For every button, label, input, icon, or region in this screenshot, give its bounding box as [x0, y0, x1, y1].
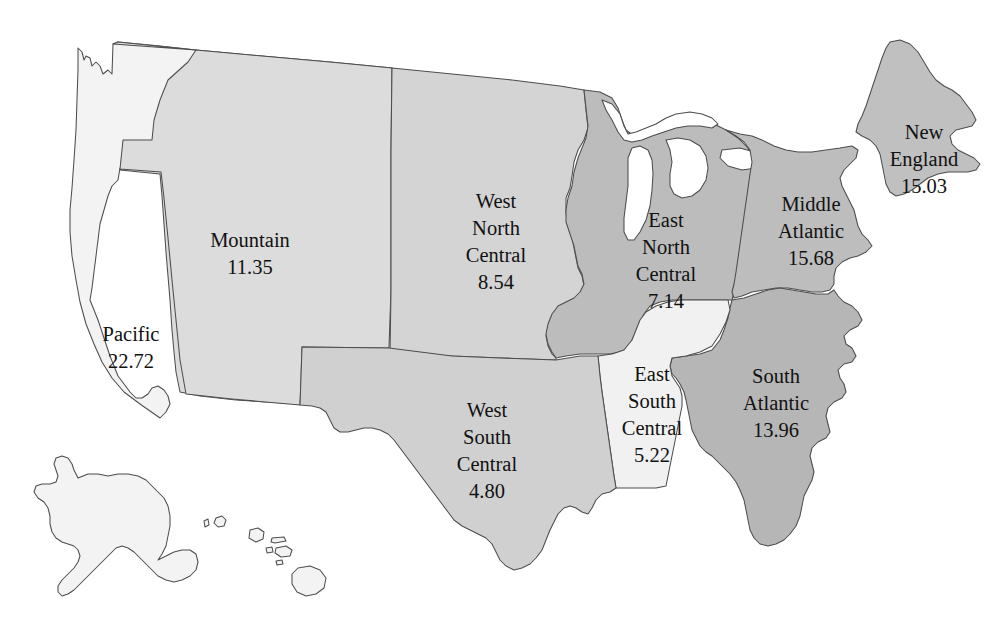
region-label-east-north-central-line-0: East	[648, 209, 684, 231]
region-label-west-south-central-line-1: South	[463, 426, 511, 448]
region-label-south-atlantic-line-1: Atlantic	[743, 392, 809, 414]
inset-shape-hawaii-bigisland	[292, 566, 326, 596]
region-label-south-atlantic-value: 13.96	[753, 419, 799, 441]
region-label-pacific: Pacific 22.72	[103, 323, 160, 372]
region-label-east-north-central-value: 7.14	[648, 290, 684, 312]
region-label-east-north-central-line-2: Central	[636, 263, 697, 285]
region-label-east-south-central-line-0: East	[634, 363, 670, 385]
region-label-pacific-value: 22.72	[108, 350, 154, 372]
inset-shape-hawaii-maui	[275, 546, 292, 557]
region-label-east-south-central-line-1: South	[628, 390, 676, 412]
region-label-new-england-value: 15.03	[901, 175, 947, 197]
inset-shape-hawaii-niihau	[204, 519, 209, 527]
inset-shape-hawaii-molokai	[271, 537, 286, 543]
inset-shape-alaska[interactable]	[34, 456, 198, 596]
map-canvas: Pacific 22.72 Mountain 11.35 West North …	[0, 0, 988, 630]
inset-shape-hawaii-kahoolawe	[276, 560, 283, 565]
region-label-middle-atlantic-line-1: Atlantic	[778, 220, 844, 242]
region-label-west-north-central-line-1: North	[472, 217, 520, 239]
region-shape-new-england[interactable]	[856, 40, 980, 196]
region-label-pacific-line-0: Pacific	[103, 323, 160, 345]
inset-group-hawaii[interactable]	[204, 516, 326, 596]
inset-shape-hawaii-lanai	[266, 547, 273, 553]
region-label-west-south-central-line-2: Central	[457, 453, 518, 475]
inset-shape-hawaii-oahu	[249, 528, 264, 542]
region-label-west-north-central-value: 8.54	[478, 271, 514, 293]
region-label-mountain-line-0: Mountain	[210, 229, 290, 251]
region-label-mountain-value: 11.35	[227, 256, 272, 278]
us-census-divisions-choropleth-map: Pacific 22.72 Mountain 11.35 West North …	[0, 0, 988, 630]
region-label-west-north-central-line-0: West	[476, 190, 517, 212]
region-label-middle-atlantic-line-0: Middle	[781, 193, 840, 215]
inset-shape-hawaii-kauai	[214, 516, 226, 527]
region-label-west-north-central-line-2: Central	[466, 244, 527, 266]
region-label-west-south-central-value: 4.80	[469, 480, 505, 502]
region-label-south-atlantic-line-0: South	[752, 365, 800, 387]
region-label-east-north-central-line-1: North	[642, 236, 690, 258]
region-label-new-england-line-0: New	[905, 121, 944, 143]
region-label-east-south-central-line-2: Central	[622, 417, 683, 439]
region-label-east-south-central-value: 5.22	[634, 444, 670, 466]
region-label-west-south-central-line-0: West	[467, 399, 508, 421]
region-label-new-england-line-1: England	[890, 148, 958, 171]
region-label-middle-atlantic-value: 15.68	[788, 247, 834, 269]
